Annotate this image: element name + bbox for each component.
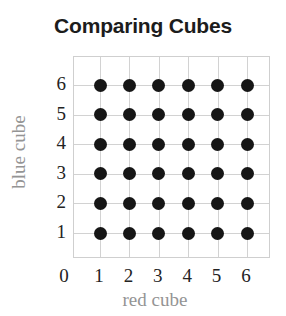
y-axis-label: blue cube [9,87,29,217]
data-point [241,197,254,210]
data-point [211,108,224,121]
data-point [182,108,195,121]
data-point [182,79,195,92]
data-point [152,138,165,151]
data-point [182,138,195,151]
data-point [241,167,254,180]
data-point [182,227,195,240]
data-point-layer [74,57,269,257]
data-point [241,138,254,151]
data-point [94,227,107,240]
data-point [211,138,224,151]
data-point [123,227,136,240]
data-point [94,197,107,210]
x-axis-label: red cube [40,290,270,310]
data-point [152,108,165,121]
x-axis-tick-labels: 0123456 [0,266,286,290]
data-point [94,167,107,180]
data-point [123,79,136,92]
data-point [94,138,107,151]
data-point [211,79,224,92]
data-point [182,197,195,210]
data-point [182,167,195,180]
data-point [211,197,224,210]
data-point [152,167,165,180]
x-tick-label: 6 [226,266,266,285]
chart-figure: Comparing Cubes 123456 0123456 blue cube… [0,0,286,316]
data-point [123,108,136,121]
data-point [123,167,136,180]
data-point [241,79,254,92]
data-point [241,108,254,121]
x-tick-label: 0 [44,266,84,285]
data-point [123,197,136,210]
data-point [211,167,224,180]
data-point [152,79,165,92]
data-point [123,138,136,151]
data-point [94,79,107,92]
data-point [241,227,254,240]
data-point [152,197,165,210]
data-point [211,227,224,240]
data-point [152,227,165,240]
page-title: Comparing Cubes [0,14,286,38]
y-tick-label: 1 [6,222,66,241]
plot-area [73,56,270,258]
data-point [94,108,107,121]
